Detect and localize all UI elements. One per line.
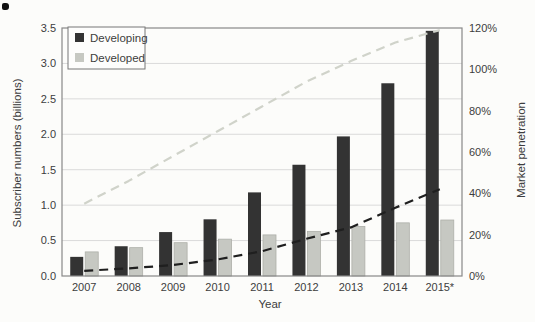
left-axis-title: Subscriber numbers (billions): [11, 78, 23, 227]
bar-developed-2011: [263, 235, 276, 276]
x-tick-label-2010: 2010: [205, 281, 229, 293]
x-tick-label-2011: 2011: [250, 281, 274, 293]
bar-developing-2008: [115, 246, 128, 276]
bar-developed-2009: [174, 243, 187, 276]
right-tick-label: 120%: [469, 22, 497, 34]
bar-developing-2007: [70, 257, 83, 276]
bar-developed-2015*: [441, 220, 454, 276]
x-tick-label-2012: 2012: [294, 281, 318, 293]
bar-developing-2010: [204, 219, 217, 276]
right-axis-title: Market penetration: [515, 102, 527, 198]
x-axis-title: Year: [258, 298, 281, 310]
bar-developed-2014: [396, 223, 409, 276]
bar-developed-2013: [352, 226, 365, 276]
right-tick-label: 40%: [469, 187, 491, 199]
left-tick-label: 1.5: [41, 164, 56, 176]
legend-label-developed: Developed: [90, 52, 145, 64]
bar-developing-2012: [292, 165, 305, 276]
left-tick-label: 3.5: [41, 22, 56, 34]
left-tick-label: 3.0: [41, 57, 56, 69]
x-tick-label-2015: 2015*: [425, 281, 454, 293]
subscribers-penetration-chart: 0.00.51.01.52.02.53.03.5 0%20%40%60%80%1…: [0, 0, 535, 322]
bar-developing-2014: [381, 83, 394, 276]
x-tick-label-2013: 2013: [339, 281, 363, 293]
bar-developing-2009: [159, 232, 172, 276]
x-axis-ticks: 200720082009201020112012201320142015*: [72, 281, 455, 293]
chart-figure: 0.00.51.01.52.02.53.03.5 0%20%40%60%80%1…: [0, 0, 535, 322]
x-tick-label-2009: 2009: [161, 281, 185, 293]
left-axis-ticks: 0.00.51.01.52.02.53.03.5: [41, 22, 56, 282]
bar-developing-2015*: [426, 31, 439, 276]
left-tick-label: 0.0: [41, 270, 56, 282]
right-axis-ticks: 0%20%40%60%80%100%120%: [469, 22, 497, 282]
legend-label-developing: Developing: [90, 32, 148, 44]
gridlines: [62, 63, 462, 240]
left-tick-label: 0.5: [41, 234, 56, 246]
right-tick-label: 80%: [469, 105, 491, 117]
left-tick-label: 2.0: [41, 128, 56, 140]
x-tick-label-2014: 2014: [383, 281, 407, 293]
developing-swatch-icon: [75, 33, 84, 42]
right-tick-label: 100%: [469, 63, 497, 75]
right-tick-label: 20%: [469, 229, 491, 241]
right-tick-label: 0%: [469, 270, 485, 282]
bar-developed-2008: [130, 248, 143, 276]
legend: Developing Developed: [68, 27, 148, 69]
right-tick-label: 60%: [469, 146, 491, 158]
x-tick-label-2007: 2007: [72, 281, 96, 293]
bar-developed-2007: [85, 252, 98, 276]
developed-swatch-icon: [75, 53, 84, 62]
left-tick-label: 1.0: [41, 199, 56, 211]
x-tick-label-2008: 2008: [116, 281, 140, 293]
bar-developing-2011: [248, 192, 261, 276]
left-tick-label: 2.5: [41, 93, 56, 105]
bar-developing-2013: [337, 136, 350, 276]
